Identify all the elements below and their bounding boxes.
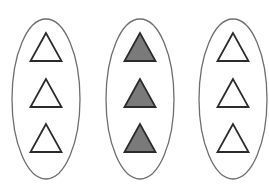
diagram-canvas	[0, 0, 269, 192]
